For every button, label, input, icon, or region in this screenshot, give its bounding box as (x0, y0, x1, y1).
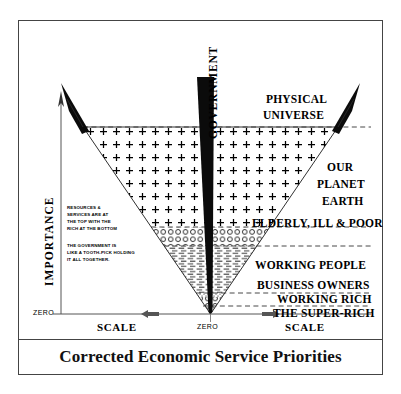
caption-box: Corrected Economic Service Priorities (19, 339, 382, 374)
x-axis-zero-label: ZERO (197, 323, 218, 330)
y-axis-zero-label: ZERO (33, 309, 54, 316)
diagram-frame: IMPORTANCE GOVERNMENT PHYSICAL UNIVERSE … (18, 20, 383, 375)
band-label-working-people: WORKING PEOPLE (255, 259, 366, 271)
y-axis-label: IMPORTANCE (43, 196, 55, 286)
earth-label-line3: EARTH (322, 195, 364, 207)
left-arrow-icon (61, 83, 89, 134)
earth-label-line2: PLANET (317, 178, 365, 190)
earth-label-line1: OUR (327, 161, 353, 173)
note-government-toothpick: THE GOVERNMENT IS LIKE A TOOTH-PICK HOLD… (67, 242, 135, 263)
x-axis-scale-label-right: SCALE (285, 321, 325, 333)
band-label-elderly-ill-poor: ELDERLY, ILL & POOR (252, 217, 383, 229)
x-axis-scale-label-left: SCALE (97, 321, 137, 333)
band-label-super-rich: THE SUPER-RICH (273, 307, 375, 319)
government-label: GOVERNMENT (207, 46, 219, 139)
band-label-business-owners: BUSINESS OWNERS (257, 279, 370, 291)
band-label-working-rich: WORKING RICH (277, 293, 372, 305)
physical-universe-label-line2: UNIVERSE (263, 109, 324, 121)
diagram-caption: Corrected Economic Service Priorities (59, 347, 341, 367)
diagram-plot-area: IMPORTANCE GOVERNMENT PHYSICAL UNIVERSE … (19, 21, 382, 339)
note-resources-services: RESOURCES & SERVICES ARE AT THE TOP WITH… (67, 204, 117, 233)
physical-universe-label-line1: PHYSICAL (266, 93, 327, 105)
right-arrow-icon (332, 83, 360, 134)
